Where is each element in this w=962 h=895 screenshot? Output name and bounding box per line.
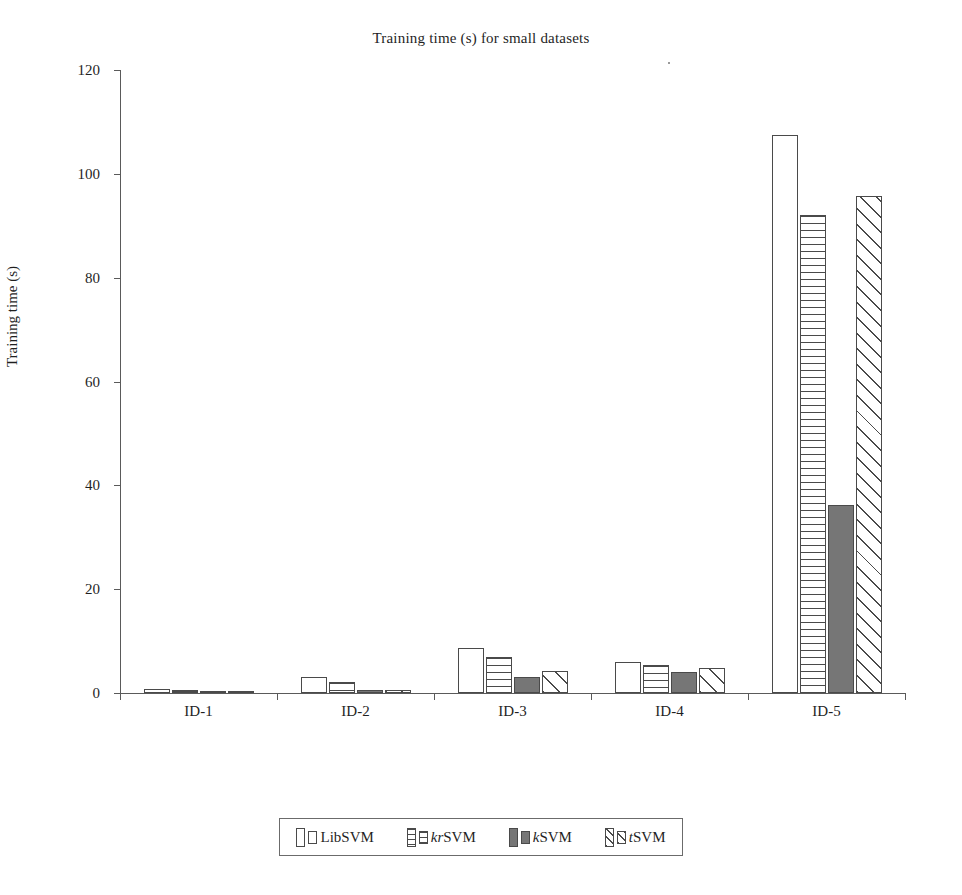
y-axis-tick-label: 100: [0, 165, 100, 182]
legend-swatch: [308, 831, 317, 844]
legend-item-ksvm: kSVM: [509, 828, 572, 847]
legend-label: tSVM: [629, 829, 666, 846]
bar-id-4-tsvm: [699, 668, 725, 693]
bar-id-1-krsvm: [172, 690, 198, 693]
y-axis-label: Training time (s): [4, 137, 21, 497]
x-axis-tick-mark: [277, 693, 278, 700]
x-axis-tick-mark: [120, 693, 121, 700]
bar-id-5-ksvm: [828, 505, 854, 693]
legend-swatch: [521, 831, 530, 844]
bar-group-bars: [120, 70, 277, 693]
bar-group-bars: [434, 70, 591, 693]
bar-group-bars: [748, 70, 905, 693]
bar-id-1-libsvm: [144, 689, 170, 693]
x-axis-tick-mark: [905, 693, 906, 700]
bar-id-2-krsvm: [329, 682, 355, 693]
legend-swatch-group: [509, 828, 530, 847]
bar-id-4-ksvm: [671, 672, 697, 693]
legend-item-krsvm: krSVM: [407, 828, 476, 847]
bar-id-3-tsvm: [542, 671, 568, 693]
legend-swatch: [407, 828, 416, 847]
bar-id-3-ksvm: [514, 677, 540, 693]
bar-group-id-3: [434, 70, 591, 693]
x-axis-tick-label: ID-4: [600, 703, 740, 720]
bar-id-4-libsvm: [615, 662, 641, 693]
legend-swatch-group: [605, 828, 626, 847]
bar-group-id-5: [748, 70, 905, 693]
plot-area: [120, 70, 905, 693]
chart-legend: LibSVMkrSVMkSVMtSVM: [279, 818, 683, 856]
bar-id-2-libsvm: [301, 677, 327, 693]
legend-swatch-group: [296, 828, 317, 847]
x-axis-line: [120, 693, 906, 694]
x-axis-tick-label: ID-2: [286, 703, 426, 720]
x-axis-tick-mark: [748, 693, 749, 700]
bar-id-5-tsvm: [856, 196, 882, 693]
y-axis-tick-label: 40: [0, 477, 100, 494]
bar-id-3-krsvm: [486, 657, 512, 693]
bar-id-5-krsvm: [800, 215, 826, 693]
x-axis-tick-label: ID-1: [129, 703, 269, 720]
x-axis-tick-label: ID-5: [757, 703, 897, 720]
bar-group-id-2: [277, 70, 434, 693]
chart-title: Training time (s) for small datasets: [0, 30, 962, 47]
legend-swatch: [605, 828, 614, 847]
y-axis-tick-label: 60: [0, 373, 100, 390]
legend-label: kSVM: [533, 829, 572, 846]
legend-item-tsvm: tSVM: [605, 828, 666, 847]
bar-id-2-ksvm: [357, 690, 383, 693]
legend-swatch: [296, 828, 305, 847]
legend-swatch: [617, 831, 626, 844]
x-axis-tick-mark: [591, 693, 592, 700]
y-axis-tick-label: 20: [0, 581, 100, 598]
legend-swatch: [509, 828, 518, 847]
x-axis-tick-label: ID-3: [443, 703, 583, 720]
bar-group-id-4: [591, 70, 748, 693]
bar-group-bars: [591, 70, 748, 693]
bar-group-id-1: [120, 70, 277, 693]
bar-id-5-libsvm: [772, 135, 798, 693]
legend-swatch-group: [407, 828, 428, 847]
y-axis-tick-label: 0: [0, 685, 100, 702]
legend-item-libsvm: LibSVM: [296, 828, 373, 847]
bar-id-2-tsvm: [385, 690, 411, 693]
legend-label: LibSVM: [320, 829, 373, 846]
bar-id-1-tsvm: [228, 691, 254, 693]
bar-id-1-ksvm: [200, 691, 226, 693]
legend-swatch: [419, 831, 428, 844]
x-axis-tick-mark: [434, 693, 435, 700]
legend-label: krSVM: [431, 829, 476, 846]
scan-artifact-speck: [668, 62, 670, 64]
bar-group-bars: [277, 70, 434, 693]
bar-id-4-krsvm: [643, 665, 669, 693]
bar-id-3-libsvm: [458, 648, 484, 693]
y-axis-tick-label: 80: [0, 269, 100, 286]
y-axis-tick-label: 120: [0, 62, 100, 79]
